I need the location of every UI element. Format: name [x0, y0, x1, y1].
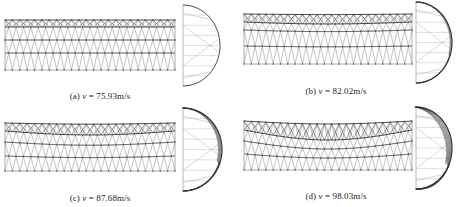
- caption-a-label: (a): [70, 91, 80, 101]
- caption-d-label: (d): [305, 191, 316, 201]
- figure-canvas: [0, 0, 459, 207]
- caption-d-value: 98.03m/s: [333, 191, 367, 201]
- caption-d-equals: =: [325, 191, 330, 201]
- caption-b: (b) v = 82.02m/s: [305, 86, 366, 96]
- caption-b-label: (b): [305, 86, 316, 96]
- truss-panel-d: [243, 120, 412, 170]
- truss-panel-a: [4, 19, 175, 70]
- caption-d-variable: v: [319, 191, 323, 201]
- caption-a-value: 75.93m/s: [96, 91, 130, 101]
- caption-c-value: 87.68m/s: [96, 193, 130, 203]
- caption-b-equals: =: [325, 86, 330, 96]
- caption-a: (a) v = 75.93m/s: [70, 91, 131, 101]
- side-view-a: [183, 5, 220, 86]
- caption-b-value: 82.02m/s: [333, 86, 367, 96]
- caption-d: (d) v = 98.03m/s: [305, 191, 366, 201]
- side-view-d: [414, 107, 452, 189]
- caption-c-equals: =: [89, 193, 94, 203]
- caption-c-variable: v: [82, 193, 86, 203]
- truss-panel-b: [243, 13, 412, 64]
- side-view-c: [182, 108, 222, 191]
- truss-panel-c: [4, 122, 175, 171]
- caption-c: (c) v = 87.68m/s: [70, 193, 131, 203]
- caption-a-variable: v: [82, 91, 86, 101]
- caption-a-equals: =: [89, 91, 94, 101]
- caption-b-variable: v: [319, 86, 323, 96]
- side-view-b: [415, 2, 452, 83]
- caption-c-label: (c): [70, 193, 80, 203]
